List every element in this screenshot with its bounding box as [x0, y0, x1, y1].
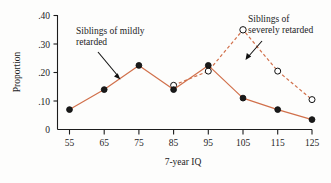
data-point-open-95	[205, 68, 211, 74]
annotation-mildly-line2: retarded	[76, 37, 107, 47]
data-point-open-105	[240, 27, 246, 33]
data-point-filled-85	[171, 87, 177, 93]
y-tick-label-10: .10	[38, 97, 50, 107]
x-tick-label-95: 95	[204, 138, 214, 148]
annotation-mildly-arrow-shaft	[98, 52, 118, 76]
x-tick-label-125: 125	[305, 138, 320, 148]
data-point-filled-65	[101, 87, 107, 93]
x-tick-label-65: 65	[99, 138, 109, 148]
x-axis-title: 7-year IQ	[165, 157, 202, 167]
annotation-mildly-line1: Siblings of mildly	[76, 26, 145, 36]
x-tick-label-115: 115	[271, 138, 285, 148]
x-tick-label-85: 85	[169, 138, 179, 148]
y-axis-title: Proportion	[12, 51, 22, 92]
data-point-open-125	[309, 97, 315, 103]
x-tick-label-105: 105	[236, 138, 251, 148]
annotation-mildly-retarded: Siblings of mildly retarded	[76, 26, 145, 80]
line-chart-svg: .40 .30 .20 .10 0 55 65 75 85 95 105 115…	[0, 0, 331, 183]
data-point-filled-75	[136, 63, 142, 69]
data-point-filled-125	[309, 117, 315, 123]
y-tick-label-20: .20	[38, 68, 50, 78]
x-tick-label-55: 55	[65, 138, 75, 148]
x-tick-label-75: 75	[134, 138, 144, 148]
data-point-filled-95	[205, 63, 211, 69]
y-tick-label-0: 0	[45, 125, 50, 135]
data-point-filled-115	[275, 107, 281, 113]
series-severely-retarded	[171, 27, 315, 103]
data-point-filled-55	[67, 107, 73, 113]
x-axis-ticks: 55 65 75 85 95 105 115 125	[65, 130, 320, 149]
annotation-severely-retarded: Siblings of severely retarded	[246, 14, 314, 60]
annotation-mildly-arrow-head	[114, 73, 121, 79]
y-tick-label-30: .30	[38, 40, 50, 50]
data-point-filled-105	[240, 95, 246, 101]
annotation-severely-line1: Siblings of	[248, 14, 290, 24]
y-axis-ticks: .40 .30 .20 .10 0	[38, 11, 57, 135]
chart-figure: .40 .30 .20 .10 0 55 65 75 85 95 105 115…	[0, 0, 331, 183]
y-tick-label-40: .40	[38, 11, 50, 21]
data-point-open-115	[275, 68, 281, 74]
series-severely-retarded-line	[174, 30, 312, 100]
annotation-severely-line2: severely retarded	[248, 25, 313, 35]
